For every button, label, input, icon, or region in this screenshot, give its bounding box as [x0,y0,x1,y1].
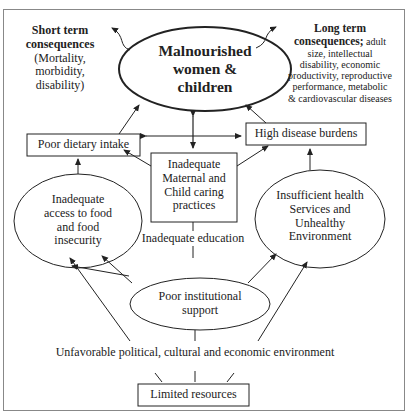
institutional-label: Poor institutional support [140,290,260,318]
maternal-care-label: Inadequate Maternal and Child caring pra… [151,158,237,213]
poor-dietary-label: Poor dietary intake [27,138,140,152]
food-access-label: Inadequate access to food and food insec… [20,193,136,248]
high-disease-label: High disease burdens [246,127,366,141]
central-label: Malnourished women & children [119,42,291,95]
education-label: Inadequate education [133,232,253,246]
health-services-label: Insufficient health Services and Unhealt… [260,189,380,244]
environment-label: Unfavorable political, cultural and econ… [40,346,350,360]
resources-label: Limited resources [138,388,249,402]
short-term-consequences: Short term consequences (Mortality, morb… [20,24,100,93]
long-term-consequences: Long term consequences; adult size, inte… [280,22,400,104]
